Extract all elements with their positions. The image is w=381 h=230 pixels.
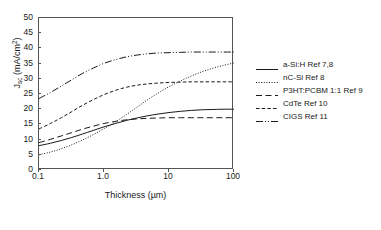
y-axis-tick-40: 40 (24, 43, 33, 52)
x-axis-tick-0.1: 0.1 (32, 172, 44, 181)
y-axis-title-close: ) (12, 37, 22, 40)
y-tick-mark (38, 32, 41, 33)
x-tick-mark (103, 169, 104, 172)
y-axis-tick-5: 5 (28, 150, 33, 159)
y-axis-tick-35: 35 (24, 58, 33, 67)
x-axis-title: Thickness (µm) (38, 190, 233, 200)
y-tick-mark (38, 108, 41, 109)
y-tick-mark (38, 139, 41, 140)
y-axis-title-superscript: 2 (11, 40, 18, 44)
legend-swatch-icon (256, 99, 278, 108)
y-axis-tick-30: 30 (24, 74, 33, 83)
y-axis-title-main: J (12, 84, 22, 89)
y-axis-title-subscript: sc (16, 78, 23, 85)
legend-label: CIGS Ref 11 (283, 113, 328, 121)
y-tick-mark (38, 123, 41, 124)
x-axis-tick-100: 100 (226, 172, 240, 181)
y-axis-title: Jsc (mA/cm2) (11, 0, 23, 133)
y-tick-mark (38, 47, 41, 48)
legend-label: P3HT:PCBM 1:1 Ref 9 (283, 87, 363, 95)
chart-legend: a-Si:H Ref 7,8nC-Si Ref 8P3HT:PCBM 1:1 R… (256, 58, 381, 123)
legend-label: nC-Si Ref 8 (283, 74, 324, 82)
legend-label: a-Si:H Ref 7,8 (283, 61, 333, 69)
legend-item-cdte-ref-10[interactable]: CdTe Ref 10 (256, 97, 381, 110)
y-axis-tick-20: 20 (24, 104, 33, 113)
legend-item-a-si-h-ref-7-8[interactable]: a-Si:H Ref 7,8 (256, 58, 381, 71)
y-tick-mark (38, 63, 41, 64)
series-line-a-si-h-ref-7-8 (39, 109, 234, 146)
y-axis-title-unit: (mA/cm (12, 44, 22, 78)
series-line-cigs-ref-11 (39, 52, 234, 99)
y-tick-mark (38, 154, 41, 155)
legend-swatch-icon (256, 60, 278, 69)
x-tick-mark (38, 169, 39, 172)
y-tick-mark (38, 78, 41, 79)
series-line-cdte-ref-10 (39, 82, 234, 129)
y-axis-tick-45: 45 (24, 28, 33, 37)
series-line-nc-si-ref-8 (39, 63, 234, 155)
y-axis-tick-15: 15 (24, 119, 33, 128)
x-tick-mark (233, 169, 234, 172)
legend-swatch-icon (256, 86, 278, 95)
plot-area (38, 17, 233, 169)
y-tick-mark (38, 17, 41, 18)
legend-swatch-icon (256, 112, 278, 121)
y-axis-tick-25: 25 (24, 89, 33, 98)
x-axis-tick-10: 10 (163, 172, 172, 181)
x-tick-mark (168, 169, 169, 172)
x-axis-tick-1.0: 1.0 (97, 172, 109, 181)
series-lines (39, 18, 234, 170)
legend-item-cigs-ref-11[interactable]: CIGS Ref 11 (256, 110, 381, 123)
legend-item-nc-si-ref-8[interactable]: nC-Si Ref 8 (256, 71, 381, 84)
legend-swatch-icon (256, 73, 278, 82)
legend-item-p3ht-pcbm-1-1-ref-9[interactable]: P3HT:PCBM 1:1 Ref 9 (256, 84, 381, 97)
legend-label: CdTe Ref 10 (283, 100, 327, 108)
y-axis-tick-50: 50 (24, 13, 33, 22)
y-axis-tick-10: 10 (24, 134, 33, 143)
y-tick-mark (38, 93, 41, 94)
chart-figure: 50454035302520151050 Jsc (mA/cm2) Thickn… (0, 0, 381, 230)
